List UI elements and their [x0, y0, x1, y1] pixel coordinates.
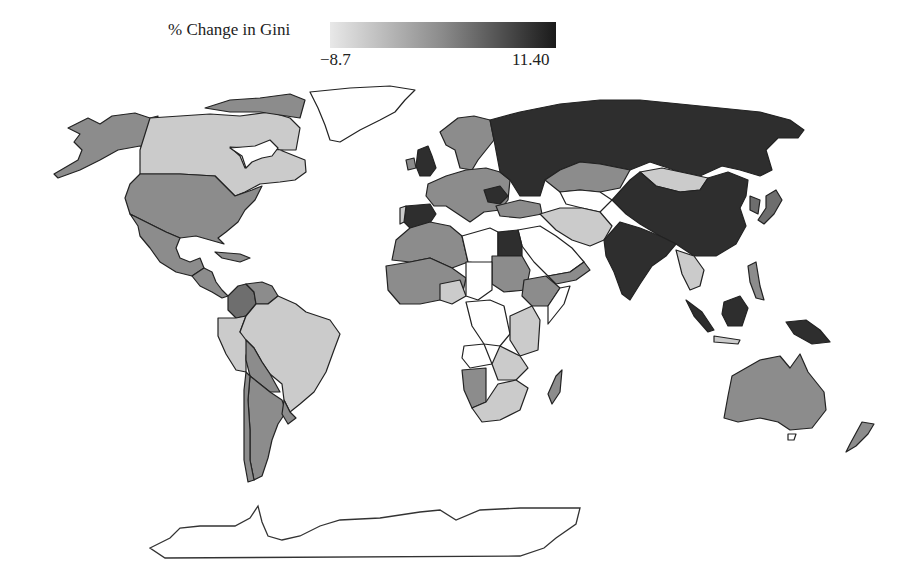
region-antarctica	[150, 506, 580, 558]
region-caribbean	[215, 252, 250, 262]
region-east-africa	[510, 306, 540, 356]
region-madagascar	[548, 370, 562, 404]
region-uk	[416, 146, 436, 176]
region-papua-new-guinea	[786, 320, 830, 344]
region-sumatra	[686, 300, 714, 332]
region-egypt	[498, 230, 522, 256]
region-angola	[462, 344, 492, 368]
region-drc	[466, 300, 510, 346]
region-tasmania	[788, 434, 796, 440]
region-central-america	[192, 268, 228, 298]
region-greenland	[310, 86, 415, 142]
region-korea-japan	[750, 190, 782, 224]
region-philippines	[748, 262, 764, 300]
region-java	[714, 336, 740, 344]
region-scandinavia	[440, 116, 494, 170]
region-namibia	[462, 368, 486, 408]
region-borneo	[722, 296, 748, 326]
region-ireland	[406, 158, 416, 170]
world-map	[0, 0, 900, 578]
region-new-zealand	[846, 422, 874, 452]
region-australia	[724, 354, 826, 430]
region-chad-car	[466, 262, 492, 300]
